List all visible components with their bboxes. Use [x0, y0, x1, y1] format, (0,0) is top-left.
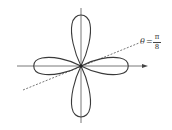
origin-point	[79, 64, 82, 67]
fraction-numerator: π	[153, 33, 161, 41]
equals-sign: =	[146, 38, 153, 46]
polar-rose-diagram	[0, 0, 172, 130]
fraction-denominator: 8	[153, 43, 161, 51]
theta-symbol: θ	[140, 38, 145, 46]
x-axis-arrow-icon	[142, 64, 148, 68]
